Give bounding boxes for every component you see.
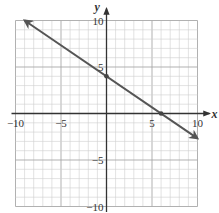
y-tick-label: 10 <box>93 15 105 27</box>
x-tick-label: 10 <box>192 117 204 129</box>
x-tick-label: −10 <box>7 117 25 129</box>
y-tick-label: 5 <box>98 61 104 73</box>
coordinate-plane: xy−10−5510105−5−10 <box>0 0 219 212</box>
intercept-point <box>104 74 109 79</box>
x-tick-label: 5 <box>149 117 155 129</box>
x-tick-label: −5 <box>55 117 67 129</box>
y-tick-label: −5 <box>92 154 104 166</box>
data-series <box>25 21 198 139</box>
line-series <box>25 21 198 139</box>
intercept-point <box>159 111 164 116</box>
x-axis-label: x <box>211 107 218 121</box>
y-axis-label: y <box>93 0 101 14</box>
tick-labels: xy−10−5510105−5−10 <box>7 0 218 212</box>
y-tick-label: −10 <box>86 201 104 213</box>
